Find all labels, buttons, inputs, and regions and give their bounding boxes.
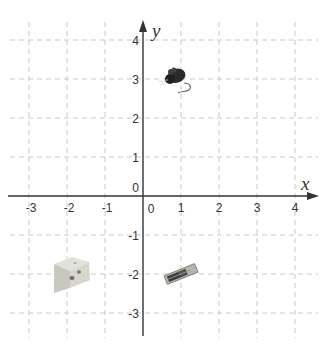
y-tick-origin: 0 xyxy=(132,181,139,195)
x-tick: 1 xyxy=(178,201,185,215)
x-tick-origin: 0 xyxy=(148,202,155,216)
y-axis-arrow-icon xyxy=(139,20,147,32)
x-tick: -1 xyxy=(102,201,113,215)
y-tick: -3 xyxy=(128,307,139,321)
x-axis-label: x xyxy=(300,173,310,194)
y-tick: -1 xyxy=(128,229,139,243)
y-axis-label: y xyxy=(150,20,161,41)
y-axis xyxy=(139,20,147,336)
y-tick: 2 xyxy=(132,112,139,126)
x-tick-labels: -3 -2 -1 0 1 2 3 4 xyxy=(26,201,299,216)
x-tick: 2 xyxy=(216,201,223,215)
y-tick: -2 xyxy=(128,268,139,282)
mouse-icon xyxy=(159,66,190,93)
x-tick: -3 xyxy=(26,201,37,215)
x-tick: 4 xyxy=(292,201,299,215)
x-tick: 3 xyxy=(254,201,261,215)
y-tick: 1 xyxy=(132,151,139,165)
y-tick-labels: 4 3 2 1 0 -1 -2 -3 xyxy=(128,34,139,321)
y-tick: 3 xyxy=(132,73,139,87)
coordinate-plane: y x -3 -2 -1 0 1 2 3 4 4 3 2 1 0 -1 -2 -… xyxy=(0,0,325,345)
cheese-icon xyxy=(54,257,90,293)
y-tick: 4 xyxy=(132,34,139,48)
x-tick: -2 xyxy=(64,201,75,215)
x-axis xyxy=(8,192,319,200)
